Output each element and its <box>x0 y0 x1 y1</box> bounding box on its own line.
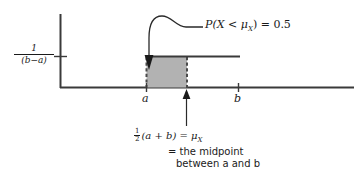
probability-annotation-tail: ) = 0.5 <box>253 18 291 31</box>
one-half-fraction: 1 2 <box>134 128 140 144</box>
midpoint-pointer-arrowhead <box>183 89 191 99</box>
midpoint-caption-body: (a + b) = μ <box>141 130 197 141</box>
midpoint-caption-subscript: X <box>198 136 203 144</box>
shaded-probability-region <box>147 57 188 88</box>
midpoint-caption: 1 2 (a + b) = μX = the midpoint between … <box>134 129 260 171</box>
y-axis-density-label: 1 (b−a) <box>14 44 54 65</box>
x-axis-label-b: b <box>234 93 241 104</box>
midpoint-caption-line-2: = the midpoint <box>134 147 260 157</box>
probability-annotation-head: P(X < μ <box>205 18 248 31</box>
x-axis-label-a: a <box>142 93 149 104</box>
y-axis-label-denominator: (b−a) <box>14 55 54 65</box>
probability-leader-curve <box>149 16 203 57</box>
one-half-denominator: 2 <box>134 136 140 143</box>
midpoint-caption-line-3: between a and b <box>134 159 260 169</box>
uniform-distribution-figure: 1 (b−a) a b P(X < μX) = 0.5 1 2 (a + b) … <box>0 0 354 184</box>
midpoint-caption-line-1: 1 2 (a + b) = μX <box>134 129 260 145</box>
probability-annotation: P(X < μX) = 0.5 <box>205 19 291 33</box>
y-axis-label-numerator: 1 <box>14 44 54 55</box>
